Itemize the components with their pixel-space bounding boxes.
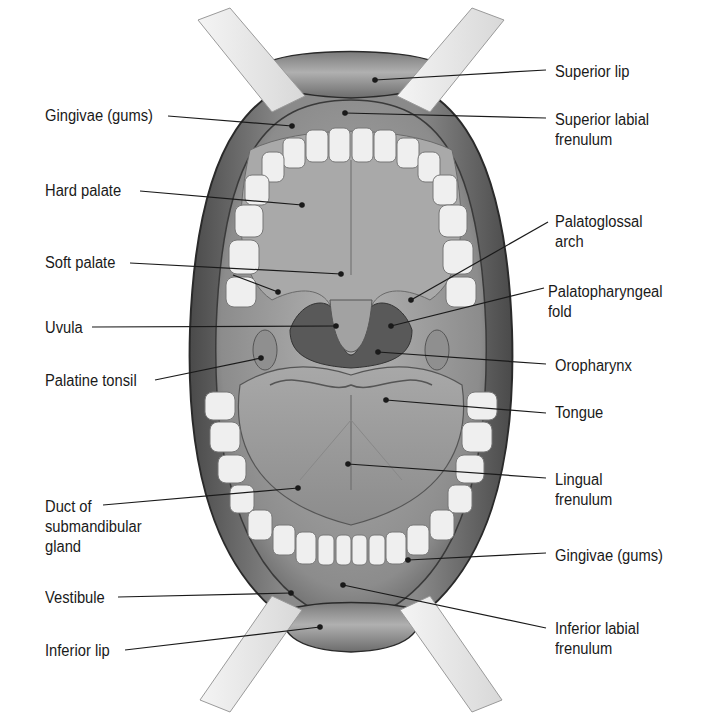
inferior-lip: [283, 603, 419, 653]
label-vestibule: Vestibule: [45, 588, 105, 608]
pointer-dot: [346, 462, 350, 466]
label-duct-submandibular-gland: Duct of submandibular gland: [45, 497, 142, 557]
pointer-dot: [406, 558, 410, 562]
label-tongue: Tongue: [555, 403, 603, 423]
label-gingivae-upper: Gingivae (gums): [45, 106, 153, 126]
pointer-dot: [276, 290, 280, 294]
label-gingivae-lower: Gingivae (gums): [555, 546, 663, 566]
label-superior-lip: Superior lip: [555, 62, 629, 82]
palatine-tonsil-right: [425, 330, 449, 370]
pointer-dot: [296, 486, 300, 490]
label-hard-palate: Hard palate: [45, 181, 121, 201]
label-oropharynx: Oropharynx: [555, 356, 632, 376]
label-inferior-lip: Inferior lip: [45, 641, 110, 661]
pointer-dot: [290, 124, 294, 128]
pointer-dot: [409, 298, 413, 302]
pointer-dot: [389, 324, 393, 328]
label-palatoglossal-arch: Palatoglossal arch: [555, 212, 643, 252]
leader-line: [125, 627, 320, 650]
pointer-dot: [259, 356, 263, 360]
pointer-dot: [343, 111, 347, 115]
pointer-dot: [289, 591, 293, 595]
label-uvula: Uvula: [45, 318, 83, 338]
palatine-tonsil-left: [253, 330, 277, 370]
label-inferior-labial-frenulum: Inferior labial frenulum: [555, 619, 639, 659]
pointer-dot: [384, 398, 388, 402]
pointer-dot: [376, 350, 380, 354]
pointer-dot: [334, 324, 338, 328]
oral-cavity-diagram: Gingivae (gums) Hard palate Soft palate …: [0, 0, 702, 724]
label-palatopharyngeal-fold: Palatopharyngeal fold: [548, 282, 663, 322]
label-superior-labial-frenulum: Superior labial frenulum: [555, 110, 649, 150]
label-palatine-tonsil: Palatine tonsil: [45, 371, 137, 391]
label-lingual-frenulum: Lingual frenulum: [555, 470, 612, 510]
pointer-dot: [339, 272, 343, 276]
pointer-dot: [318, 625, 322, 629]
pointer-dot: [300, 203, 304, 207]
pointer-dot: [341, 583, 345, 587]
pointer-dot: [373, 78, 377, 82]
label-soft-palate: Soft palate: [45, 253, 115, 273]
